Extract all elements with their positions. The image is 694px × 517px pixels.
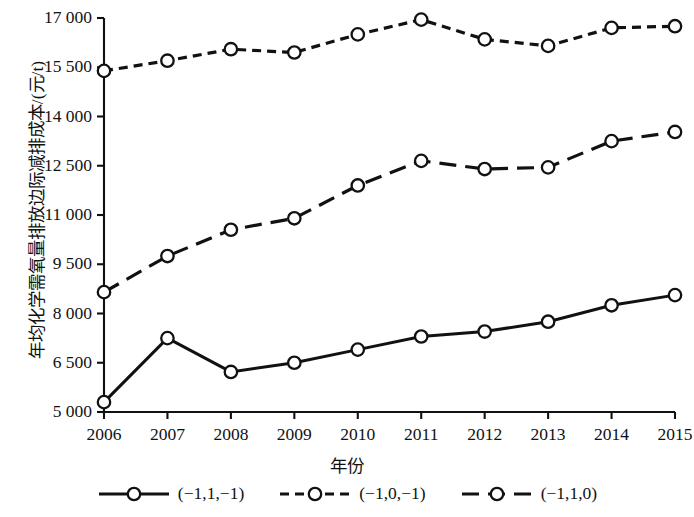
series-0-marker-4: [352, 343, 364, 355]
series-0-marker-3: [288, 357, 300, 369]
series-1-marker-3: [288, 46, 300, 58]
y-tick-label: 14 000: [44, 106, 92, 127]
chart-figure: 年均化学需氧量排放边际减排成本/(元/t) 5 0006 5008 0009 5…: [0, 0, 694, 517]
legend-item-0[interactable]: (−1,1,−1): [97, 484, 244, 504]
series-1-marker-7: [542, 40, 554, 52]
series-2-marker-2: [225, 224, 237, 236]
series-2-marker-0: [98, 286, 110, 298]
series-2-marker-9: [669, 126, 681, 138]
legend-swatch-2: [460, 484, 534, 504]
series-1-marker-5: [415, 13, 427, 25]
y-tick-label: 17 000: [44, 7, 92, 28]
chart-series: [98, 13, 681, 408]
series-0-marker-2: [225, 366, 237, 378]
legend-label-0: (−1,1,−1): [178, 485, 244, 503]
series-2-marker-5: [415, 155, 427, 167]
series-0-marker-0: [98, 396, 110, 408]
legend-item-2[interactable]: (−1,1,0): [460, 484, 598, 504]
series-1-marker-8: [605, 22, 617, 34]
series-2-marker-3: [288, 212, 300, 224]
series-0-marker-9: [669, 289, 681, 301]
series-1-marker-2: [225, 43, 237, 55]
y-tick-label: 9 500: [53, 253, 92, 274]
x-axis-title: 年份: [0, 452, 694, 477]
legend-label-2: (−1,1,0): [541, 485, 598, 503]
series-1-marker-6: [478, 33, 490, 45]
series-2-marker-8: [605, 135, 617, 147]
series-2-marker-7: [542, 161, 554, 173]
chart-axes: [97, 18, 675, 419]
series-2-marker-6: [478, 163, 490, 175]
y-tick-label: 5 000: [53, 401, 92, 422]
series-0-marker-1: [161, 332, 173, 344]
series-line-2: [104, 132, 675, 292]
legend-item-1[interactable]: (−1,0,−1): [278, 484, 425, 504]
series-1-marker-4: [352, 28, 364, 40]
series-0-marker-8: [605, 299, 617, 311]
legend-label-1: (−1,0,−1): [359, 485, 425, 503]
series-0-marker-6: [478, 325, 490, 337]
series-0-marker-5: [415, 330, 427, 342]
series-1-marker-0: [98, 65, 110, 77]
y-tick-label: 8 000: [53, 303, 92, 324]
series-2-marker-1: [161, 250, 173, 262]
x-tick-label: 2015: [635, 424, 694, 445]
y-tick-label: 15 500: [44, 56, 92, 77]
series-2-marker-4: [352, 179, 364, 191]
series-line-1: [104, 20, 675, 71]
series-1-marker-9: [669, 20, 681, 32]
legend-swatch-0: [97, 484, 171, 504]
y-tick-label: 6 500: [53, 352, 92, 373]
chart-legend: (−1,1,−1)(−1,0,−1)(−1,1,0): [0, 484, 694, 504]
series-line-0: [104, 295, 675, 402]
y-tick-label: 11 000: [45, 204, 92, 225]
y-tick-label: 12 500: [44, 155, 92, 176]
series-0-marker-7: [542, 316, 554, 328]
legend-swatch-1: [278, 484, 352, 504]
series-1-marker-1: [161, 54, 173, 66]
